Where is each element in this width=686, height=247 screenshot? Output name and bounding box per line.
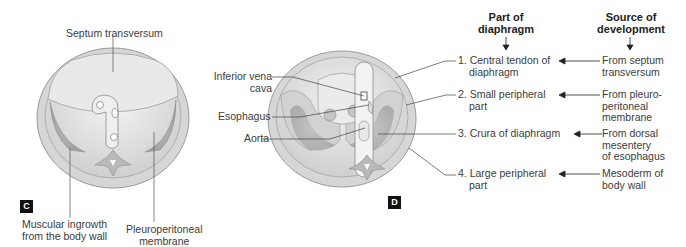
panel-c-tag: C bbox=[20, 200, 33, 213]
label-aorta: Aorta bbox=[244, 133, 269, 145]
label-muscular-ingrowth: Muscular ingrowth from the body wall bbox=[22, 219, 107, 242]
panel-d-tag: D bbox=[388, 196, 401, 209]
panel-d-illustration bbox=[262, 51, 456, 187]
header-source-of-development: Source of development bbox=[592, 11, 670, 35]
source-septum-transversum: From septum transversum bbox=[602, 55, 664, 78]
part-small-peripheral: 2. Small peripheral part bbox=[458, 89, 546, 112]
panel-c-illustration bbox=[37, 35, 189, 222]
part-large-peripheral: 4. Large peripheral part bbox=[458, 168, 546, 191]
label-esophagus: Esophagus bbox=[218, 111, 271, 123]
source-body-wall-mesoderm: Mesoderm of body wall bbox=[602, 168, 663, 191]
label-septum-transversum: Septum transversum bbox=[66, 28, 163, 40]
source-dorsal-mesentery: From dorsal mesentery of esophagus bbox=[602, 128, 665, 163]
source-pleuroperitoneal-membrane: From pleuro- peritoneal membrane bbox=[602, 89, 662, 124]
part-central-tendon: 1. Central tendon of diaphragm bbox=[458, 55, 550, 78]
label-pleuroperitoneal-membrane: Pleuroperitoneal membrane bbox=[126, 224, 202, 247]
part-crura: 3. Crura of diaphragm bbox=[458, 128, 560, 140]
header-part-of-diaphragm: Part of diaphragm bbox=[466, 11, 546, 35]
label-inferior-vena-cava: Inferior vena cava bbox=[212, 71, 272, 94]
